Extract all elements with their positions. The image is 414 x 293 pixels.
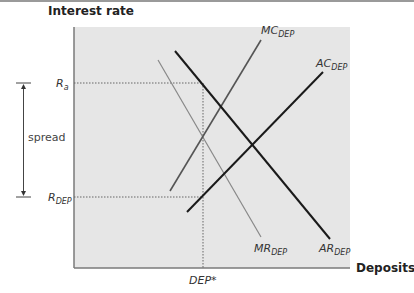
spread-label: spread: [28, 131, 66, 144]
interest-rate-diagram: Interest rate Deposits Ra RDEP DEP* MCDE…: [0, 0, 414, 293]
depstar-label: DEP*: [189, 274, 217, 287]
rdep-label: RDEP: [48, 191, 72, 206]
y-axis-label: Interest rate: [48, 4, 134, 18]
mc-dep-label: MCDEP: [261, 24, 294, 39]
arrow-up-icon: [21, 84, 26, 89]
x-axis-label: Deposits: [356, 261, 414, 275]
ra-label: Ra: [56, 77, 69, 92]
plot-area: [74, 27, 350, 268]
arrow-down-icon: [21, 191, 26, 196]
